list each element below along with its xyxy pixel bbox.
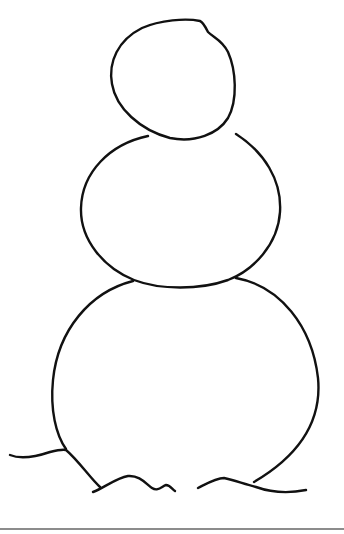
snowman-bottom-body-right (236, 278, 318, 482)
bottom-divider (0, 528, 344, 530)
snow-ground-right (198, 478, 306, 492)
snowman-bottom-body (52, 281, 133, 449)
snow-ground-center-left (93, 476, 175, 492)
snowman-middle-body (81, 134, 280, 288)
snowman-head (111, 20, 235, 140)
snowman-drawing (0, 0, 344, 534)
snow-ground-left (10, 450, 100, 487)
